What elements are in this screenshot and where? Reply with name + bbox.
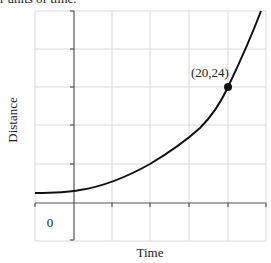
data-point-marker (224, 83, 232, 91)
y-axis (70, 11, 74, 240)
distance-time-chart: (20,24) 0 Time Distance (0, 0, 271, 263)
origin-label: 0 (47, 215, 54, 230)
x-axis-label: Time (137, 245, 164, 260)
distance-curve (35, 11, 261, 193)
point-label: (20,24) (191, 65, 229, 80)
y-axis-label: Distance (5, 97, 20, 143)
x-axis (35, 203, 266, 207)
